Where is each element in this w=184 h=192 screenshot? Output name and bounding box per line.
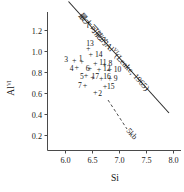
data-point-label: 4 [70,64,74,73]
data-point-label: 15 [107,82,115,91]
scatter-plot-svg: 1.2 1.0 0.8 0.6 0.4 0.2 6.0 6.5 7.0 7.5 … [0,0,184,192]
data-point: +2 [93,88,102,98]
plus-marker-icon: + [84,71,89,80]
y-axis-title-superscript: VI [6,80,12,86]
data-point: +5 [80,71,89,81]
y-axis-tick-labels: 1.2 1.0 0.8 0.6 0.4 0.2 [32,27,42,141]
y-tick-label: 1.2 [32,27,42,36]
five-kb-line [108,100,127,129]
data-point-label: 10 [114,65,122,74]
y-axis-title-group: AlVI [5,80,16,95]
x-axis-title: Si [111,172,119,183]
data-point: +4 [70,63,80,74]
data-point-label: 1 [79,54,83,63]
data-point-label: 7 [78,81,82,90]
annot-main: 最大可能的Al [77,11,117,54]
y-tick-label: 0.2 [32,132,42,141]
x-tick-label: 7.5 [141,156,151,165]
data-point: +1 [79,54,85,66]
data-point-label: 3 [64,55,68,64]
y-tick-label: 0.8 [32,69,42,78]
x-tick-label: 6.0 [60,156,70,165]
x-tick-label: 6.5 [87,156,97,165]
y-tick-label: 1.0 [32,48,42,57]
y-axis-title: AlVI [5,80,16,95]
x-tick-label: 7.0 [114,156,124,165]
data-point-label: 5 [80,72,84,81]
plus-marker-icon: + [93,88,98,97]
data-point: +7 [78,81,88,91]
data-point: +15 [103,82,115,92]
y-tick-label: 0.6 [32,90,42,99]
y-axis-title-main: Al [5,86,16,96]
data-point-label: 13 [86,39,94,48]
x-axis-tick-labels: 6.0 6.5 7.0 7.5 8.0 [60,156,178,165]
plus-marker-icon: + [75,63,80,72]
x-tick-label: 8.0 [168,156,178,165]
plus-marker-icon: + [83,81,88,90]
chart-container: 1.2 1.0 0.8 0.6 0.4 0.2 6.0 6.5 7.0 7.5 … [0,0,184,192]
plus-marker-icon: + [89,50,94,59]
data-point-label: 2 [98,89,102,98]
y-tick-label: 0.4 [32,111,42,120]
